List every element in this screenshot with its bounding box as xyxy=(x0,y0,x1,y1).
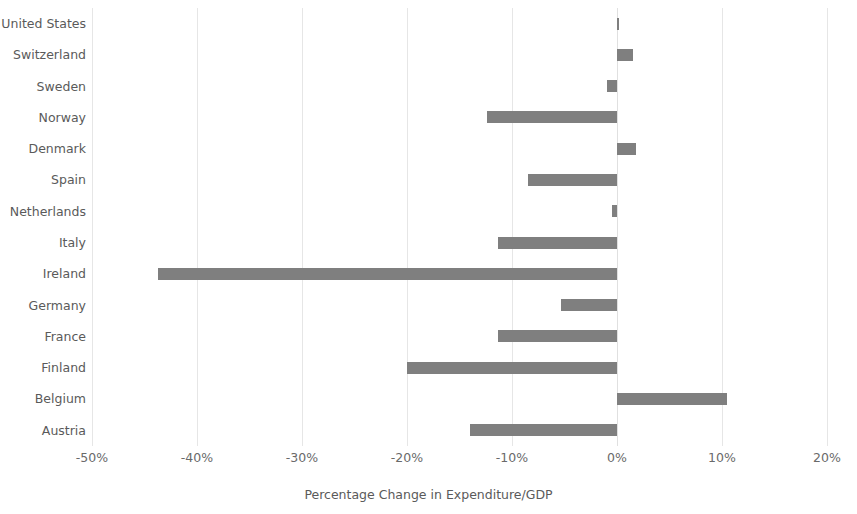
bar-row xyxy=(92,383,827,414)
x-axis-tick-20pct: 20% xyxy=(813,450,841,465)
x-axis-title: Percentage Change in Expenditure/GDP xyxy=(0,487,857,502)
y-axis-label-germany: Germany xyxy=(0,290,86,321)
y-axis-label-switzerland: Switzerland xyxy=(0,39,86,70)
y-axis-label-france: France xyxy=(0,321,86,352)
y-axis-label-united-states: United States xyxy=(0,8,86,39)
bar-row xyxy=(92,290,827,321)
y-axis-label-finland: Finland xyxy=(0,352,86,383)
y-axis-label-austria: Austria xyxy=(0,415,86,446)
y-axis-label-italy: Italy xyxy=(0,227,86,258)
y-axis-label-ireland: Ireland xyxy=(0,258,86,289)
bar-belgium xyxy=(617,393,727,405)
horizontal-bar-chart: United StatesSwitzerlandSwedenNorwayDenm… xyxy=(0,0,857,514)
y-axis-label-belgium: Belgium xyxy=(0,383,86,414)
plot-area xyxy=(92,8,827,446)
bar-italy xyxy=(498,237,617,249)
x-axis-tick-neg30pct: -30% xyxy=(286,450,318,465)
y-axis-label-norway: Norway xyxy=(0,102,86,133)
y-axis-label-sweden: Sweden xyxy=(0,71,86,102)
bar-austria xyxy=(470,424,617,436)
x-axis-tick-neg20pct: -20% xyxy=(391,450,423,465)
bar-ireland xyxy=(158,268,617,280)
bar-row xyxy=(92,164,827,195)
y-axis-label-spain: Spain xyxy=(0,164,86,195)
bar-france xyxy=(498,330,617,342)
bar-finland xyxy=(407,362,617,374)
y-axis-category-labels: United StatesSwitzerlandSwedenNorwayDenm… xyxy=(0,8,86,446)
x-axis-tick-neg10pct: -10% xyxy=(496,450,528,465)
bar-switzerland xyxy=(617,49,633,61)
bar-row xyxy=(92,8,827,39)
x-axis-tick-10pct: 10% xyxy=(708,450,736,465)
bar-denmark xyxy=(617,143,636,155)
bar-row xyxy=(92,39,827,70)
bar-row xyxy=(92,352,827,383)
x-axis-tick-neg50pct: -50% xyxy=(76,450,108,465)
bar-row xyxy=(92,196,827,227)
gridline-20pct xyxy=(827,8,828,446)
x-axis-tick-neg40pct: -40% xyxy=(181,450,213,465)
x-axis-tick-labels: -50%-40%-30%-20%-10%0%10%20% xyxy=(92,450,827,472)
y-axis-label-denmark: Denmark xyxy=(0,133,86,164)
bar-row xyxy=(92,227,827,258)
bar-germany xyxy=(561,299,617,311)
bar-row xyxy=(92,102,827,133)
bar-row xyxy=(92,71,827,102)
bar-spain xyxy=(528,174,617,186)
bar-netherlands xyxy=(612,205,617,217)
bar-united-states xyxy=(617,18,619,30)
bar-row xyxy=(92,415,827,446)
x-axis-tick-0pct: 0% xyxy=(607,450,627,465)
bar-norway xyxy=(487,111,617,123)
bar-sweden xyxy=(607,80,618,92)
bar-row xyxy=(92,321,827,352)
bar-row xyxy=(92,133,827,164)
y-axis-label-netherlands: Netherlands xyxy=(0,196,86,227)
bar-row xyxy=(92,258,827,289)
